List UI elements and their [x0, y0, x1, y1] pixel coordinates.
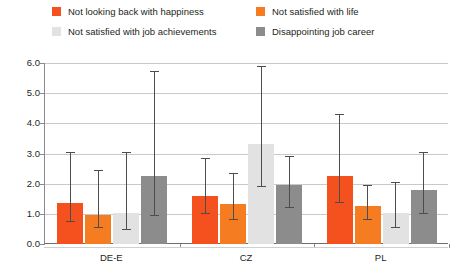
error-bar-stem — [98, 170, 99, 228]
error-bar — [355, 185, 381, 220]
y-axis-tick — [40, 63, 45, 64]
error-bar-cap-bottom — [94, 227, 103, 228]
error-bar-stem — [233, 173, 234, 220]
bar-chart: Not looking back with happiness Not sati… — [0, 0, 456, 276]
error-bar-cap-top — [94, 170, 103, 171]
plot-canvas — [45, 63, 448, 244]
y-axis-labels: 0.01.02.03.04.05.06.0 — [0, 63, 40, 244]
y-axis-tick-label: 4.0 — [0, 117, 40, 128]
y-axis-tick — [40, 244, 45, 245]
error-bar — [276, 156, 302, 208]
error-bar-cap-bottom — [363, 219, 372, 220]
legend-row-0: Not looking back with happiness Not sati… — [52, 6, 448, 24]
y-axis-tick-label: 0.0 — [0, 238, 40, 249]
gridline — [45, 93, 448, 94]
error-bar-stem — [289, 156, 290, 208]
error-bar — [57, 152, 83, 222]
gridline — [45, 123, 448, 124]
error-bar-stem — [261, 66, 262, 187]
error-bar-cap-top — [391, 182, 400, 183]
error-bar-cap-bottom — [122, 229, 131, 230]
legend-item-not-satisfied-with-job-achievements: Not satisfied with job achievements — [52, 26, 216, 37]
error-bar-cap-bottom — [229, 219, 238, 220]
y-axis-tick-label: 3.0 — [0, 148, 40, 159]
error-bar-stem — [367, 185, 368, 220]
error-bar-cap-bottom — [201, 213, 210, 214]
error-bar-stem — [70, 152, 71, 222]
error-bar — [141, 71, 167, 217]
legend-row-1: Not satisfied with job achievements Disa… — [52, 26, 448, 44]
x-axis-labels: DE-ECZPL — [44, 252, 448, 270]
y-axis-tick — [40, 123, 45, 124]
x-axis-category-label: PL — [375, 252, 387, 263]
legend-label: Not looking back with happiness — [68, 6, 204, 17]
legend-item-not-looking-back-with-happiness: Not looking back with happiness — [52, 6, 204, 17]
error-bar-stem — [423, 152, 424, 214]
y-axis-tick — [40, 214, 45, 215]
legend-label: Not satisfied with life — [272, 6, 359, 17]
y-axis-tick-label: 1.0 — [0, 208, 40, 219]
x-axis-category-label: CZ — [240, 252, 253, 263]
error-bar — [113, 152, 139, 230]
legend-swatch-icon — [256, 27, 265, 36]
error-bar-stem — [126, 152, 127, 230]
error-bar-stem — [339, 114, 340, 203]
error-bar-cap-top — [335, 114, 344, 115]
error-bar — [383, 182, 409, 228]
error-bar-cap-top — [150, 71, 159, 72]
error-bar — [248, 66, 274, 187]
error-bar — [411, 152, 437, 214]
error-bar-cap-top — [363, 185, 372, 186]
error-bar-cap-bottom — [335, 202, 344, 203]
error-bar-cap-top — [122, 152, 131, 153]
error-bar-cap-top — [257, 66, 266, 67]
error-bar-cap-top — [229, 173, 238, 174]
x-axis-tick — [449, 244, 450, 248]
gridline — [45, 154, 448, 155]
error-bar-cap-top — [201, 158, 210, 159]
legend-label: Not satisfied with job achievements — [68, 26, 216, 37]
legend-label: Disappointing job career — [272, 26, 374, 37]
error-bar-cap-bottom — [66, 221, 75, 222]
error-bar-cap-top — [285, 156, 294, 157]
error-bar-cap-bottom — [150, 215, 159, 216]
legend-item-not-satisfied-with-life: Not satisfied with life — [256, 6, 359, 17]
error-bar-stem — [154, 71, 155, 217]
y-axis-tick-label: 6.0 — [0, 57, 40, 68]
y-axis-tick-label: 2.0 — [0, 178, 40, 189]
y-axis-tick-label: 5.0 — [0, 87, 40, 98]
error-bar-stem — [205, 158, 206, 214]
legend-swatch-icon — [256, 7, 265, 16]
error-bar — [327, 114, 353, 203]
error-bar-cap-bottom — [285, 207, 294, 208]
legend-item-disappointing-job-career: Disappointing job career — [256, 26, 374, 37]
error-bar — [85, 170, 111, 228]
legend-swatch-icon — [52, 7, 61, 16]
error-bar-cap-bottom — [419, 213, 428, 214]
error-bar — [220, 173, 246, 220]
chart-legend: Not looking back with happiness Not sati… — [52, 6, 448, 48]
legend-swatch-icon — [52, 27, 61, 36]
x-axis-category-label: DE-E — [100, 252, 123, 263]
error-bar-cap-bottom — [257, 186, 266, 187]
y-axis-tick — [40, 184, 45, 185]
error-bar-stem — [395, 182, 396, 228]
error-bar-cap-bottom — [391, 227, 400, 228]
error-bar-cap-top — [66, 152, 75, 153]
error-bar-cap-top — [419, 152, 428, 153]
error-bar — [192, 158, 218, 214]
plot-bottom-rule — [44, 247, 448, 248]
y-axis-tick — [40, 93, 45, 94]
plot-area — [44, 63, 448, 244]
y-axis-tick — [40, 154, 45, 155]
gridline — [45, 63, 448, 64]
